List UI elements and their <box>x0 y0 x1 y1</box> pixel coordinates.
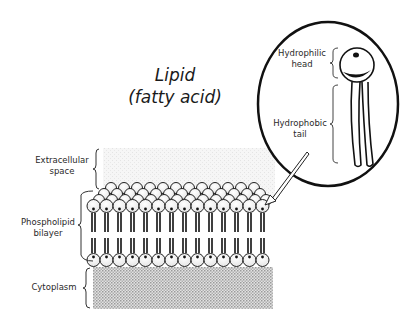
hydrophilic-label-line2: head <box>272 59 332 70</box>
hydrophobic-tail-label: Hydrophobic tail <box>268 118 332 140</box>
extracellular-space-label: Extracellular space <box>30 155 94 177</box>
phospholipid-bilayer-label: Phospholipid bilayer <box>18 217 78 239</box>
bilayer-front-lipids <box>92 213 264 253</box>
cytoplasm-label: Cytoplasm <box>28 282 80 293</box>
zoom-inset-circle <box>258 22 398 186</box>
extracellular-label-line1: Extracellular <box>30 155 94 166</box>
bilayer-label-line2: bilayer <box>18 228 78 239</box>
extracellular-label-line2: space <box>30 166 94 177</box>
lower-leaflet-heads <box>87 254 269 267</box>
cytoplasm-region <box>93 267 273 309</box>
title-lipid: Lipid <box>100 65 250 85</box>
hydrophilic-head-label: Hydrophilic head <box>272 48 332 70</box>
hydrophilic-label-line1: Hydrophilic <box>272 48 332 59</box>
title-fatty-acid: (fatty acid) <box>100 87 250 107</box>
hydrophobic-label-line1: Hydrophobic <box>268 118 332 129</box>
hydrophobic-label-line2: tail <box>268 129 332 140</box>
bilayer-label-line1: Phospholipid <box>18 217 78 228</box>
